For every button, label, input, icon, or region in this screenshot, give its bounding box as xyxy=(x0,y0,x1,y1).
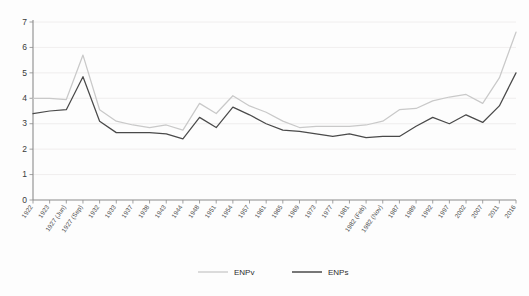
y-tick-label: 7 xyxy=(22,17,27,27)
x-tick-label: 1948 xyxy=(186,203,200,219)
chart-legend: ENPvENPs xyxy=(198,268,348,277)
x-tick-label: 1987 xyxy=(386,203,400,219)
y-tick-label: 6 xyxy=(22,42,27,52)
x-tick-label: 2002 xyxy=(453,203,467,219)
x-tick-label: 1937 xyxy=(120,203,134,219)
chart-container: 01234567 192219231927 (Jun)1927 (Sep)193… xyxy=(0,0,529,296)
x-tick-label: 1943 xyxy=(153,203,167,219)
x-tick-label: 1992 xyxy=(420,203,434,219)
series-line-enpv xyxy=(33,32,516,130)
x-tick-label: 1965 xyxy=(270,203,284,219)
x-tick-label: 1954 xyxy=(220,203,234,219)
x-tick-label: 1922 xyxy=(20,203,34,219)
x-tick-label: 1973 xyxy=(303,203,317,219)
x-tick-label: 1989 xyxy=(403,203,417,219)
x-tick-label: 1944 xyxy=(170,203,184,219)
y-tick-label: 5 xyxy=(22,68,27,78)
x-tick-label: 1933 xyxy=(103,203,117,219)
x-tick-label: 1951 xyxy=(203,203,217,219)
line-chart: 01234567 192219231927 (Jun)1927 (Sep)193… xyxy=(0,0,529,296)
y-tick-label: 3 xyxy=(22,118,27,128)
x-tick-label: 2016 xyxy=(503,203,517,219)
x-tick-label: 1981 xyxy=(336,203,350,219)
x-tick-label: 2011 xyxy=(487,203,501,219)
legend-label-enpv: ENPv xyxy=(234,268,254,277)
x-tick-label: 1997 xyxy=(436,203,450,219)
series-line-enps xyxy=(33,73,516,139)
y-axis-ticks: 01234567 xyxy=(22,17,33,205)
x-tick-label: 1969 xyxy=(286,203,300,219)
x-tick-label: 2007 xyxy=(470,203,484,219)
legend-label-enps: ENPs xyxy=(328,268,348,277)
x-tick-label: 1961 xyxy=(253,203,267,219)
x-tick-label: 1938 xyxy=(137,203,151,219)
x-tick-label: 1977 xyxy=(320,203,334,219)
y-tick-label: 4 xyxy=(22,93,27,103)
y-tick-label: 1 xyxy=(22,169,27,179)
x-tick-label: 1932 xyxy=(87,203,101,219)
data-series xyxy=(33,32,516,139)
y-tick-label: 0 xyxy=(22,195,27,205)
y-tick-label: 2 xyxy=(22,144,27,154)
x-tick-label: 1923 xyxy=(37,203,51,219)
x-axis-ticks: 192219231927 (Jun)1927 (Sep)193219331937… xyxy=(20,200,517,234)
x-tick-label: 1957 xyxy=(236,203,250,219)
